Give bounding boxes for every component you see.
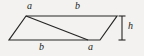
side-label-a-top: a <box>27 1 32 11</box>
height-marker <box>119 16 126 40</box>
geometry-figure: a b b a h <box>0 0 144 56</box>
parallelogram-diagram <box>0 0 144 56</box>
side-label-b-bottom: b <box>39 42 44 52</box>
diagonal-line <box>26 16 88 40</box>
parallelogram-outline <box>9 16 117 40</box>
side-label-a-bottom: a <box>88 42 93 52</box>
side-label-b-top: b <box>75 1 80 11</box>
height-label-h: h <box>128 21 133 31</box>
